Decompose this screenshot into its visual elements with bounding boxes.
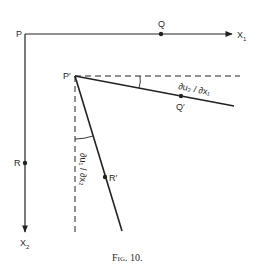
label-r: R (14, 158, 21, 168)
point-r (23, 161, 27, 165)
label-p: P (16, 29, 22, 39)
label-x1: X1 (237, 30, 247, 42)
angle-arc-left (75, 136, 93, 139)
label-x2: X2 (20, 238, 30, 250)
label-q-prime: Q′ (176, 102, 185, 112)
angle-arc-top (139, 76, 140, 88)
point-q (159, 32, 163, 36)
label-r-prime: R′ (109, 173, 117, 183)
point-q-prime (179, 94, 183, 98)
label-q: Q (158, 19, 165, 29)
deformation-diagram: P Q R P′ Q′ R′ X1 X2 ∂u₂ / ∂x₁ ∂u₁ / ∂x₂… (0, 0, 258, 272)
point-r-prime (103, 175, 107, 179)
figure-caption: Fig. 10. (112, 252, 142, 263)
angle-label-left: ∂u₁ / ∂x₂ (78, 153, 88, 186)
label-p-prime: P′ (63, 71, 71, 81)
